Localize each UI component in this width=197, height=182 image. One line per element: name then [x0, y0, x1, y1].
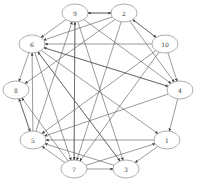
edge-4-to-5: [45, 94, 169, 136]
edge-7-to-9: [74, 22, 75, 160]
node-9: 9: [62, 4, 88, 22]
node-label: 4: [178, 87, 182, 94]
node-label: 7: [72, 166, 76, 173]
edge-3-to-6: [38, 52, 120, 161]
node-label: 8: [14, 87, 18, 94]
edge-9-to-6: [41, 20, 66, 38]
edge-10-to-4: [168, 53, 177, 81]
node-7: 7: [61, 160, 87, 178]
node-5: 5: [20, 131, 46, 149]
node-label: 10: [161, 41, 169, 48]
node-label: 6: [30, 41, 34, 48]
node-4: 4: [167, 81, 193, 99]
edge-5-to-6: [32, 53, 33, 131]
node-label: 1: [165, 137, 169, 144]
node-3: 3: [113, 160, 139, 178]
edge-5-to-8: [19, 99, 30, 131]
node-1: 1: [154, 131, 180, 149]
node-label: 3: [124, 166, 128, 173]
node-10: 10: [152, 35, 178, 53]
edge-10-to-7: [80, 52, 159, 161]
node-6: 6: [19, 35, 45, 53]
directed-graph: 92104137586: [0, 0, 197, 182]
edge-7-to-8: [22, 98, 68, 161]
edge-10-to-2: [133, 20, 156, 38]
node-label: 2: [122, 10, 126, 17]
edge-9-to-3: [78, 22, 123, 160]
edge-4-to-1: [169, 99, 177, 131]
node-2: 2: [111, 4, 137, 22]
node-label: 5: [31, 137, 35, 144]
node-label: 9: [73, 10, 77, 17]
node-8: 8: [3, 81, 29, 99]
edge-2-to-7: [77, 22, 121, 160]
edge-4-to-6: [44, 48, 168, 87]
edge-6-to-8: [19, 53, 29, 82]
